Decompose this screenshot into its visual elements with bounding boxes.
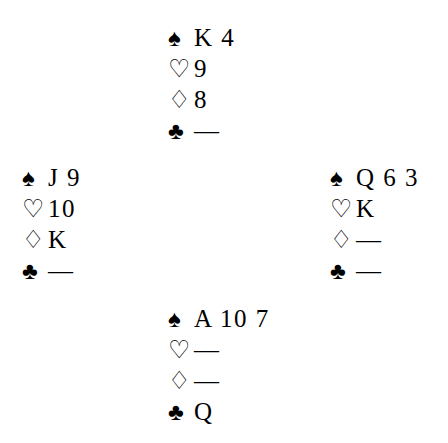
hand-south-spade-row: ♠ A 10 7 [168, 303, 270, 334]
hand-south-club-row: ♣ Q [168, 396, 270, 427]
heart-icon: ♡ [330, 193, 355, 224]
hand-east-clubs: — [355, 255, 381, 286]
hand-east-club-row: ♣ — [330, 255, 419, 286]
hand-south-spades: A 10 7 [193, 303, 270, 334]
club-icon: ♣ [168, 397, 193, 428]
bridge-deal-diagram: ♠ K 4 ♡ 9 ♢ 8 ♣ — ♠ J 9 ♡ 10 ♢ K ♣ [0, 0, 448, 443]
hand-north: ♠ K 4 ♡ 9 ♢ 8 ♣ — [168, 22, 235, 146]
hand-west-heart-row: ♡ 10 [22, 193, 81, 224]
hand-north-clubs: — [193, 115, 219, 146]
spade-icon: ♠ [168, 304, 193, 335]
hand-south-clubs: Q [193, 396, 214, 427]
spade-icon: ♠ [330, 163, 355, 194]
hand-east: ♠ Q 6 3 ♡ K ♢ — ♣ — [330, 162, 419, 286]
hand-east-spades: Q 6 3 [355, 162, 419, 193]
hand-south-diamond-row: ♢ — [168, 365, 270, 396]
hand-south-heart-row: ♡ — [168, 334, 270, 365]
hand-south-hearts: — [193, 334, 219, 365]
hand-east-hearts: K [355, 193, 376, 224]
hand-north-heart-row: ♡ 9 [168, 53, 235, 84]
hand-west-club-row: ♣ — [22, 255, 81, 286]
diamond-icon: ♢ [330, 224, 355, 255]
hand-west-diamonds: K [47, 224, 68, 255]
club-icon: ♣ [22, 256, 47, 287]
hand-west-hearts: 10 [47, 193, 76, 224]
hand-north-hearts: 9 [193, 53, 208, 84]
hand-south-diamonds: — [193, 365, 219, 396]
hand-north-diamonds: 8 [193, 84, 208, 115]
heart-icon: ♡ [168, 53, 193, 84]
diamond-icon: ♢ [168, 365, 193, 396]
spade-icon: ♠ [22, 163, 47, 194]
diamond-icon: ♢ [22, 224, 47, 255]
hand-west: ♠ J 9 ♡ 10 ♢ K ♣ — [22, 162, 81, 286]
hand-west-spade-row: ♠ J 9 [22, 162, 81, 193]
hand-north-spades: K 4 [193, 22, 235, 53]
club-icon: ♣ [168, 116, 193, 147]
diamond-icon: ♢ [168, 84, 193, 115]
hand-east-heart-row: ♡ K [330, 193, 419, 224]
heart-icon: ♡ [168, 334, 193, 365]
heart-icon: ♡ [22, 193, 47, 224]
hand-north-club-row: ♣ — [168, 115, 235, 146]
hand-east-spade-row: ♠ Q 6 3 [330, 162, 419, 193]
hand-west-diamond-row: ♢ K [22, 224, 81, 255]
hand-north-spade-row: ♠ K 4 [168, 22, 235, 53]
hand-south: ♠ A 10 7 ♡ — ♢ — ♣ Q [168, 303, 270, 427]
spade-icon: ♠ [168, 23, 193, 54]
hand-east-diamond-row: ♢ — [330, 224, 419, 255]
club-icon: ♣ [330, 256, 355, 287]
hand-west-spades: J 9 [47, 162, 81, 193]
hand-north-diamond-row: ♢ 8 [168, 84, 235, 115]
hand-west-clubs: — [47, 255, 73, 286]
hand-east-diamonds: — [355, 224, 381, 255]
